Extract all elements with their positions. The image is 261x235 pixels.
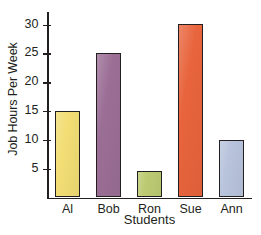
y-axis-tick-label: 15 — [25, 103, 39, 117]
y-axis-tick-label: 25 — [25, 45, 39, 59]
y-axis-tick: 20 — [43, 82, 51, 83]
y-axis-tick-label: 5 — [32, 161, 39, 175]
y-axis-tick: 15 — [43, 111, 51, 112]
bar-shading — [97, 54, 120, 196]
y-axis-tick-label: 20 — [25, 74, 39, 88]
bar-bob — [96, 53, 121, 197]
bar-chart: Job Hours Per Week 51015202530 AlBobRonS… — [0, 0, 261, 235]
bar-ann — [219, 140, 244, 198]
bar-ron — [137, 171, 162, 197]
y-axis-line — [47, 12, 49, 199]
y-axis-tick: 25 — [43, 53, 51, 54]
bar-shading — [179, 25, 202, 196]
bar-shading — [138, 172, 161, 196]
y-axis-tick-label: 30 — [25, 17, 39, 31]
bar-sue — [178, 24, 203, 197]
bar-al — [55, 111, 80, 197]
y-axis-title: Job Hours Per Week — [4, 0, 22, 198]
x-axis-title: Students — [47, 212, 252, 227]
x-axis-line — [47, 198, 252, 200]
bar-shading — [220, 141, 243, 197]
y-axis-tick-label: 10 — [25, 132, 39, 146]
plot-area: 51015202530 AlBobRonSueAnn — [47, 12, 252, 199]
y-axis-tick: 10 — [43, 140, 51, 141]
bar-shading — [56, 112, 79, 196]
y-axis-tick: 5 — [43, 169, 51, 170]
y-axis-tick: 30 — [43, 25, 51, 26]
